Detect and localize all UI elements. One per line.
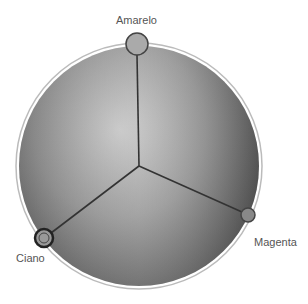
color-wheel[interactable] bbox=[0, 0, 308, 304]
label-ciano: Ciano bbox=[16, 252, 45, 264]
label-amarelo: Amarelo bbox=[116, 14, 157, 26]
label-magenta: Magenta bbox=[254, 236, 297, 248]
handle-ciano[interactable] bbox=[35, 229, 53, 247]
handle-amarelo[interactable] bbox=[126, 33, 148, 55]
handle-magenta[interactable] bbox=[241, 208, 255, 222]
